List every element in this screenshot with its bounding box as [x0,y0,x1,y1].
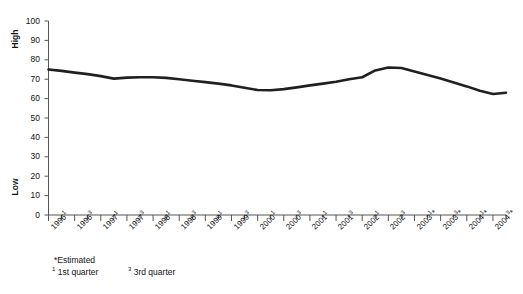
footnote-estimated: *Estimated [54,255,95,265]
footnote-q1-text: 1st quarter [58,267,99,277]
y-tick-label: 50 [14,114,40,123]
line-chart: High Low 0102030405060708090100 19961199… [0,0,523,294]
y-tick-label: 20 [14,172,40,181]
y-tick-label: 30 [14,152,40,161]
footnote-first-quarter: 1 1st quarter [52,266,98,277]
y-tick-label: 70 [14,75,40,84]
y-tick-label: 0 [14,211,40,220]
footnote-third-quarter: 3 3rd quarter [128,266,175,277]
plot-area [0,0,523,294]
y-tick-label: 60 [14,94,40,103]
data-series-line [49,68,507,94]
y-tick-label: 10 [14,191,40,200]
y-tick-label: 90 [14,36,40,45]
footnote-q3-marker: 3 [128,266,131,272]
y-tick-label: 40 [14,133,40,142]
cut-off-caption-strip [0,283,523,294]
footnote-q3-text: 3rd quarter [134,267,176,277]
footnote-q1-marker: 1 [52,266,55,272]
y-tick-label: 100 [14,17,40,26]
y-tick-label: 80 [14,55,40,64]
